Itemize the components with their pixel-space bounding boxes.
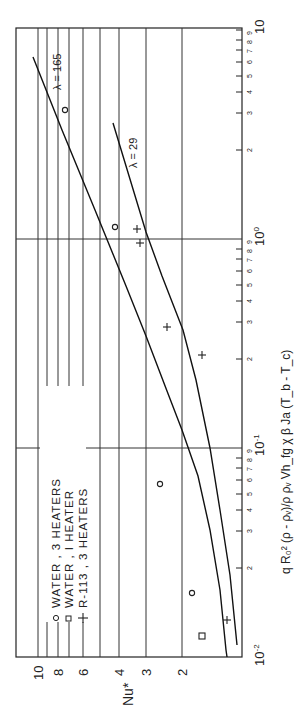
svg-text:3: 3 bbox=[246, 320, 253, 324]
svg-text:8: 8 bbox=[246, 249, 253, 253]
chart-svg: WATER , 3 HEATERS WATER , I HEATER R-113… bbox=[0, 0, 304, 724]
x-axis-ticks bbox=[236, 30, 242, 568]
svg-text:6: 6 bbox=[246, 478, 253, 482]
svg-text:5: 5 bbox=[246, 283, 253, 287]
curve-lambda-29 bbox=[113, 123, 237, 645]
svg-text:2: 2 bbox=[246, 357, 253, 361]
svg-text:7: 7 bbox=[246, 258, 253, 262]
legend: WATER , 3 HEATERS WATER , I HEATER R-113… bbox=[50, 478, 89, 623]
svg-text:2: 2 bbox=[246, 566, 253, 570]
svg-text:2: 2 bbox=[246, 148, 253, 152]
svg-text:8: 8 bbox=[51, 669, 66, 676]
annotation-lambda-29: λ = 29 bbox=[127, 138, 139, 168]
y-axis-tick-labels: 10 8 6 4 3 2 bbox=[31, 666, 190, 680]
svg-text:10-1: 10-1 bbox=[252, 434, 267, 456]
svg-text:4: 4 bbox=[112, 669, 127, 676]
svg-text:10-2: 10-2 bbox=[252, 644, 267, 666]
svg-text:3: 3 bbox=[246, 111, 253, 115]
svg-text:10: 10 bbox=[31, 666, 46, 680]
svg-text:6: 6 bbox=[246, 60, 253, 64]
svg-text:6: 6 bbox=[246, 269, 253, 273]
legend-label-water-1: WATER , I HEATER bbox=[63, 490, 75, 608]
svg-text:4: 4 bbox=[246, 508, 253, 512]
svg-text:4: 4 bbox=[246, 90, 253, 94]
svg-text:5: 5 bbox=[246, 492, 253, 496]
legend-label-r113-3: R-113 , 3 HEATERS bbox=[77, 488, 89, 608]
series-water-1-heater bbox=[199, 633, 205, 639]
svg-text:7: 7 bbox=[246, 467, 253, 471]
svg-text:7: 7 bbox=[246, 49, 253, 53]
svg-text:4: 4 bbox=[246, 299, 253, 303]
svg-text:6: 6 bbox=[76, 669, 91, 676]
x-axis-title: q R₀² (ρ - ρᵥ)/ρ ρᵥ Vh_fg χ β Ja (T_b - … bbox=[279, 350, 293, 574]
svg-text:10: 10 bbox=[252, 20, 267, 34]
svg-text:2: 2 bbox=[175, 669, 190, 676]
svg-text:3: 3 bbox=[139, 669, 154, 676]
legend-label-water-3: WATER , 3 HEATERS bbox=[50, 478, 62, 608]
y-axis-title: Nu* bbox=[120, 682, 136, 706]
svg-text:100: 100 bbox=[252, 227, 267, 246]
svg-text:8: 8 bbox=[246, 458, 253, 462]
svg-text:3: 3 bbox=[246, 529, 253, 533]
svg-text:8: 8 bbox=[246, 40, 253, 44]
x-axis-major-labels: 10 100 10-1 10-2 bbox=[252, 20, 267, 666]
annotation-lambda-165: λ = 165 bbox=[51, 54, 63, 90]
svg-text:5: 5 bbox=[246, 74, 253, 78]
x-axis-minor-labels: 2 3 4 5 6 7 8 9 2 3 4 5 6 7 8 9 2 3 4 5 … bbox=[246, 31, 253, 570]
